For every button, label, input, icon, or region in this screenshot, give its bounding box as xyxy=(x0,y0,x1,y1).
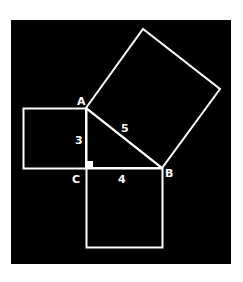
right-angle-marker xyxy=(87,161,93,167)
background-panel xyxy=(11,20,231,264)
vertex-label-C: C xyxy=(72,173,80,186)
pythagoras-diagram: A B C 3 4 5 xyxy=(0,0,243,282)
vertex-label-A: A xyxy=(77,95,86,108)
side-label-AB: 5 xyxy=(121,122,129,135)
vertex-label-B: B xyxy=(165,167,173,180)
side-label-AC: 3 xyxy=(75,134,83,147)
side-label-CB: 4 xyxy=(118,173,126,186)
